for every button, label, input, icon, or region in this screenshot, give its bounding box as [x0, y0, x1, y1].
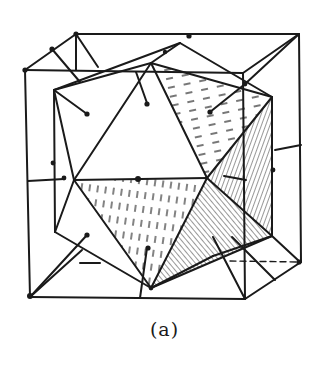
- figure-caption: (a): [0, 318, 329, 340]
- hidden-edge: [230, 261, 300, 262]
- icosahedron-in-cube-diagram: [0, 0, 329, 369]
